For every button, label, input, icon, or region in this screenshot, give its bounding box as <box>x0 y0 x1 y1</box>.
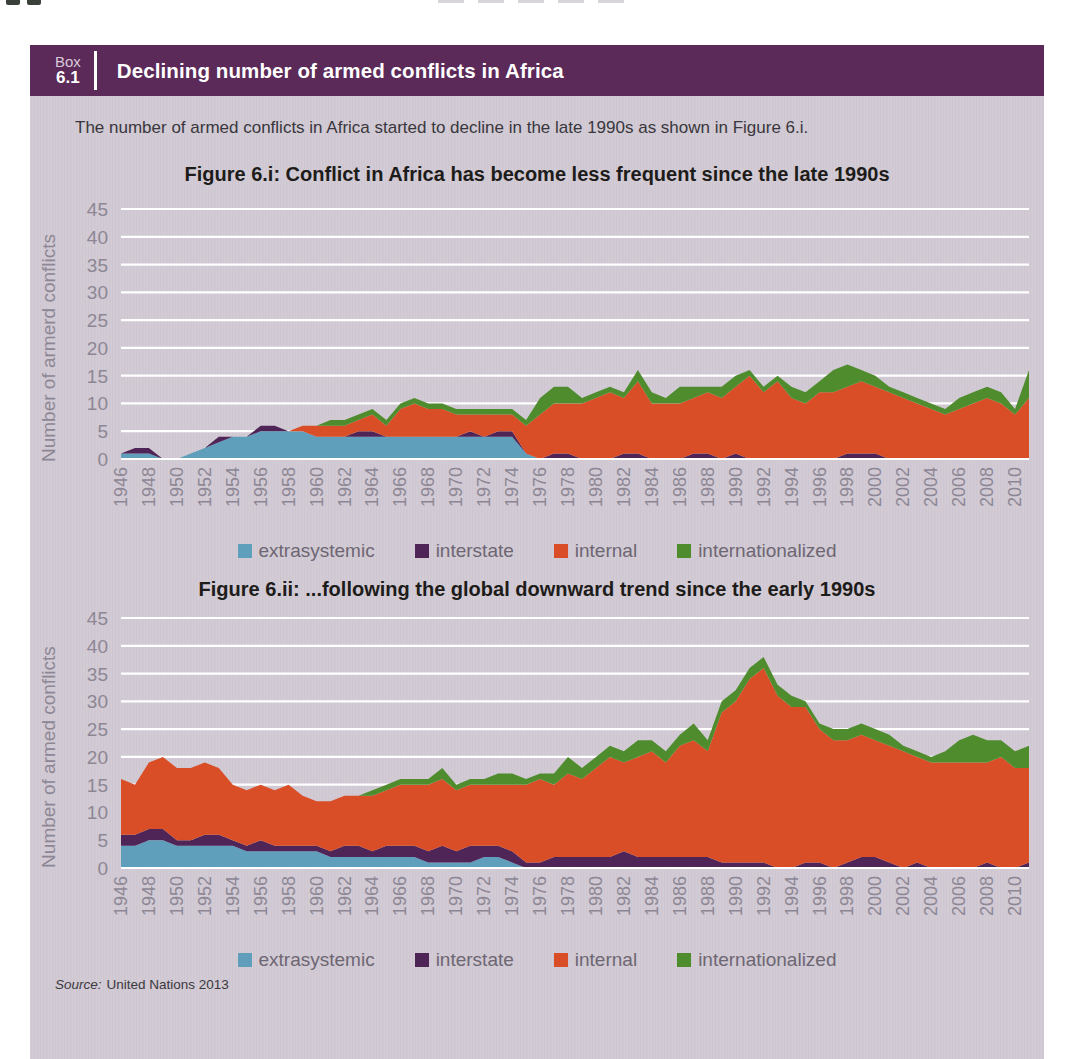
svg-text:1970: 1970 <box>446 876 466 916</box>
svg-text:1970: 1970 <box>446 467 466 507</box>
svg-text:2008: 2008 <box>977 467 997 507</box>
svg-text:1950: 1950 <box>167 467 187 507</box>
svg-text:1966: 1966 <box>390 467 410 507</box>
running-header-fragment <box>438 0 638 3</box>
legend-item-internationalized: internationalized <box>677 540 836 562</box>
svg-text:1984: 1984 <box>642 876 662 916</box>
page-number-glyph-fragment <box>27 0 41 5</box>
box-body: The number of armed conflicts in Africa … <box>30 96 1044 1059</box>
svg-text:1946: 1946 <box>111 876 131 916</box>
source-text: United Nations 2013 <box>107 977 229 992</box>
svg-text:1982: 1982 <box>614 467 634 507</box>
svg-text:1976: 1976 <box>530 467 550 507</box>
svg-text:1956: 1956 <box>251 467 271 507</box>
svg-text:40: 40 <box>87 227 108 248</box>
legend-item-extrasystemic: extrasystemic <box>238 949 375 971</box>
svg-text:2000: 2000 <box>865 467 885 507</box>
y-tick-labels: 051015202530354045 <box>87 200 108 470</box>
svg-text:2010: 2010 <box>1005 467 1025 507</box>
svg-text:1998: 1998 <box>837 876 857 916</box>
svg-text:1954: 1954 <box>223 876 243 916</box>
svg-text:1972: 1972 <box>474 467 494 507</box>
figure-1-stacked-area-svg: 0510152025303540451946194819501952195419… <box>35 200 1041 535</box>
svg-text:1962: 1962 <box>335 467 355 507</box>
figure-1-chart: 0510152025303540451946194819501952195419… <box>35 200 1044 535</box>
svg-text:1976: 1976 <box>530 876 550 916</box>
svg-text:1962: 1962 <box>335 876 355 916</box>
svg-text:1980: 1980 <box>586 876 606 916</box>
svg-text:1954: 1954 <box>223 467 243 507</box>
extrasystemic-swatch-icon <box>238 953 252 967</box>
svg-text:0: 0 <box>97 449 108 470</box>
legend-item-internal: internal <box>554 949 637 971</box>
figure-2-stacked-area-svg: 0510152025303540451946194819501952195419… <box>35 609 1041 944</box>
svg-text:2000: 2000 <box>865 876 885 916</box>
y-axis-label: Number of armed conflicts <box>38 646 59 868</box>
svg-text:1952: 1952 <box>195 876 215 916</box>
svg-text:1968: 1968 <box>418 467 438 507</box>
box-title: Declining number of armed conflicts in A… <box>117 59 564 83</box>
box-label: Box 6.1 <box>55 54 81 88</box>
legend-label: extrasystemic <box>259 949 375 971</box>
svg-text:2004: 2004 <box>921 876 941 916</box>
legend-label: interstate <box>436 540 514 562</box>
svg-text:2002: 2002 <box>893 467 913 507</box>
figure-2-title: Figure 6.ii: ...following the global dow… <box>30 578 1044 601</box>
svg-text:1996: 1996 <box>810 467 830 507</box>
y-tick-labels: 051015202530354045 <box>87 609 108 879</box>
svg-text:1974: 1974 <box>502 467 522 507</box>
svg-text:40: 40 <box>87 636 108 657</box>
figure-1-title: Figure 6.i: Conflict in Africa has becom… <box>30 163 1044 186</box>
svg-text:2006: 2006 <box>949 876 969 916</box>
svg-text:1960: 1960 <box>307 467 327 507</box>
internationalized-swatch-icon <box>677 544 691 558</box>
svg-text:1986: 1986 <box>670 876 690 916</box>
svg-text:2004: 2004 <box>921 467 941 507</box>
svg-text:2008: 2008 <box>977 876 997 916</box>
legend-item-extrasystemic: extrasystemic <box>238 540 375 562</box>
svg-text:1946: 1946 <box>111 467 131 507</box>
svg-text:45: 45 <box>87 200 108 220</box>
svg-text:1978: 1978 <box>558 876 578 916</box>
svg-text:20: 20 <box>87 338 108 359</box>
legend-label: internationalized <box>698 949 836 971</box>
box-header: Box 6.1 Declining number of armed confli… <box>30 45 1044 96</box>
interstate-swatch-icon <box>415 953 429 967</box>
y-axis-label: Number of armerd conflicts <box>38 234 59 462</box>
svg-text:2006: 2006 <box>949 467 969 507</box>
svg-text:30: 30 <box>87 282 108 303</box>
svg-text:1994: 1994 <box>782 467 802 507</box>
internationalized-swatch-icon <box>677 953 691 967</box>
svg-text:1948: 1948 <box>139 467 159 507</box>
legend-label: internal <box>575 540 637 562</box>
svg-text:1958: 1958 <box>279 876 299 916</box>
box-header-divider <box>94 51 97 90</box>
svg-text:1986: 1986 <box>670 467 690 507</box>
page-number-glyph-fragment <box>6 0 20 5</box>
svg-text:1984: 1984 <box>642 467 662 507</box>
x-tick-labels: 1946194819501952195419561958196019621964… <box>111 876 1025 916</box>
figure-2-chart: 0510152025303540451946194819501952195419… <box>35 609 1044 944</box>
svg-text:1982: 1982 <box>614 876 634 916</box>
svg-text:1950: 1950 <box>167 876 187 916</box>
scanned-page: Box 6.1 Declining number of armed confli… <box>0 0 1073 1059</box>
svg-text:1978: 1978 <box>558 467 578 507</box>
svg-text:25: 25 <box>87 310 108 331</box>
svg-text:5: 5 <box>97 830 108 851</box>
source-label: Source: <box>55 977 102 992</box>
svg-text:1958: 1958 <box>279 467 299 507</box>
svg-text:1988: 1988 <box>698 876 718 916</box>
box-6-1: Box 6.1 Declining number of armed confli… <box>30 45 1044 1059</box>
svg-text:1956: 1956 <box>251 876 271 916</box>
svg-text:2010: 2010 <box>1005 876 1025 916</box>
figure-1-legend: extrasystemicinterstateinternalinternati… <box>30 537 1044 565</box>
svg-text:1964: 1964 <box>362 876 382 916</box>
svg-text:1966: 1966 <box>390 876 410 916</box>
legend-item-internationalized: internationalized <box>677 949 836 971</box>
svg-text:1998: 1998 <box>837 467 857 507</box>
svg-text:5: 5 <box>97 421 108 442</box>
source-note: Source:United Nations 2013 <box>55 977 1044 992</box>
legend-item-internal: internal <box>554 540 637 562</box>
svg-text:15: 15 <box>87 366 108 387</box>
legend-label: internationalized <box>698 540 836 562</box>
